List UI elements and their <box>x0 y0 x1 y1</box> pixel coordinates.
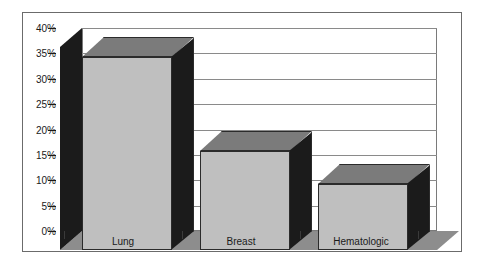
y-tick-dash-0 <box>48 231 56 232</box>
y-tick-dash-30 <box>48 79 56 80</box>
x-tick-mark-2 <box>300 231 301 239</box>
bar-lung-front-face <box>82 57 172 250</box>
x-tick-mark-1 <box>182 231 183 239</box>
y-tick-label-40: 40% <box>12 24 56 34</box>
figure-canvas: 40% 35% 30% 25% 20% 15% 10% 5% <box>0 0 484 264</box>
x-axis-label-lung: Lung <box>78 236 168 248</box>
chart-left-wall <box>60 28 82 250</box>
y-tick-label-15: 15% <box>12 151 56 161</box>
y-tick-label-35: 35% <box>12 49 56 59</box>
gridline-40 <box>82 28 437 29</box>
x-tick-mark-0 <box>64 231 65 239</box>
y-tick-label-20: 20% <box>12 126 56 136</box>
y-tick-dash-15 <box>48 155 56 156</box>
y-tick-dash-20 <box>48 130 56 131</box>
y-tick-dash-35 <box>48 53 56 54</box>
y-tick-dash-10 <box>48 180 56 181</box>
y-tick-dash-40 <box>48 28 56 29</box>
bar-lung[interactable] <box>82 38 172 250</box>
y-tick-dash-5 <box>48 206 56 207</box>
y-tick-dash-25 <box>48 104 56 105</box>
bar-lung-side-face <box>171 38 194 250</box>
x-axis-label-hematologic: Hematologic <box>308 236 414 248</box>
x-axis-label-breast: Breast <box>196 236 286 248</box>
chart-plot-area: 40% 35% 30% 25% 20% 15% 10% 5% <box>0 0 484 264</box>
y-tick-label-30: 30% <box>12 75 56 85</box>
y-tick-label-25: 25% <box>12 100 56 110</box>
x-tick-mark-3 <box>418 231 419 239</box>
bar-breast[interactable] <box>200 132 290 250</box>
y-tick-label-5: 5% <box>12 202 56 212</box>
y-tick-label-0: 0% <box>12 227 56 237</box>
y-tick-label-10: 10% <box>12 176 56 186</box>
